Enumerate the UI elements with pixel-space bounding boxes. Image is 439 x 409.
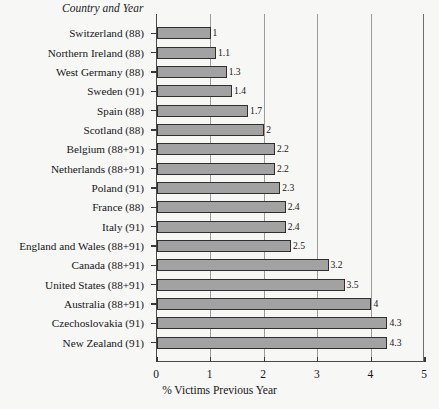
category-label: Sweden (91) bbox=[87, 85, 144, 97]
bar bbox=[157, 182, 280, 194]
bar-value-label: 2.5 bbox=[293, 241, 305, 251]
x-tick-label-5: 5 bbox=[412, 368, 436, 380]
category-label: Australia (88+91) bbox=[64, 298, 144, 310]
category-tick bbox=[151, 265, 157, 267]
bar bbox=[157, 105, 248, 117]
bar-value-label: 3.5 bbox=[347, 280, 359, 290]
bar-value-label: 2.4 bbox=[288, 202, 300, 212]
bar bbox=[157, 163, 275, 175]
bar bbox=[157, 47, 216, 59]
bar-chart: Country and Year Switzerland (88)Norther… bbox=[0, 0, 439, 409]
category-tick bbox=[151, 91, 157, 93]
bar bbox=[157, 298, 371, 310]
category-tick bbox=[151, 226, 157, 228]
bar bbox=[157, 317, 387, 329]
bar bbox=[157, 27, 211, 39]
bar bbox=[157, 221, 286, 233]
bar bbox=[157, 279, 345, 291]
bar bbox=[157, 66, 227, 78]
category-tick bbox=[151, 52, 157, 54]
bar bbox=[157, 124, 264, 136]
category-tick bbox=[151, 149, 157, 151]
category-tick bbox=[151, 71, 157, 73]
category-label: Spain (88) bbox=[97, 105, 144, 117]
category-tick bbox=[151, 187, 157, 189]
category-label: Switzerland (88) bbox=[69, 27, 144, 39]
bar bbox=[157, 337, 387, 349]
x-tick-3 bbox=[317, 357, 318, 362]
category-label: England and Wales (88+91) bbox=[19, 240, 144, 252]
category-label: Canada (88+91) bbox=[72, 259, 144, 271]
category-tick bbox=[151, 342, 157, 344]
category-axis-title: Country and Year bbox=[62, 2, 143, 14]
x-tick-1 bbox=[210, 357, 211, 362]
bar bbox=[157, 259, 329, 271]
bar-value-label: 1.1 bbox=[218, 48, 230, 58]
x-tick-label-4: 4 bbox=[358, 368, 382, 380]
x-tick-label-0: 0 bbox=[144, 368, 168, 380]
category-label: Netherlands (88+91) bbox=[51, 163, 144, 175]
bar-value-label: 2.3 bbox=[282, 183, 294, 193]
category-label: New Zealand (91) bbox=[63, 337, 144, 349]
x-tick-label-2: 2 bbox=[251, 368, 275, 380]
bar-value-label: 2.2 bbox=[277, 144, 289, 154]
x-tick-label-3: 3 bbox=[305, 368, 329, 380]
bar bbox=[157, 240, 291, 252]
category-tick bbox=[151, 110, 157, 112]
bar-value-label: 1.3 bbox=[229, 67, 241, 77]
category-label: Italy (91) bbox=[102, 221, 144, 233]
category-tick bbox=[151, 207, 157, 209]
category-tick bbox=[151, 129, 157, 131]
category-label: France (88) bbox=[92, 201, 144, 213]
bar bbox=[157, 85, 232, 97]
bar-value-label: 4 bbox=[373, 299, 378, 309]
bar-value-label: 4.3 bbox=[389, 318, 401, 328]
x-axis-title: % Victims Previous Year bbox=[0, 384, 439, 396]
bar-value-label: 3.2 bbox=[331, 260, 343, 270]
category-tick bbox=[151, 284, 157, 286]
category-label: West Germany (88) bbox=[56, 66, 144, 78]
category-tick bbox=[151, 323, 157, 325]
category-label: Poland (91) bbox=[91, 182, 144, 194]
bar bbox=[157, 143, 275, 155]
category-label: United States (88+91) bbox=[45, 279, 144, 291]
bar-value-label: 2.4 bbox=[288, 222, 300, 232]
bar-value-label: 1.7 bbox=[250, 106, 262, 116]
x-tick-label-1: 1 bbox=[198, 368, 222, 380]
category-tick bbox=[151, 245, 157, 247]
category-tick bbox=[151, 168, 157, 170]
category-label: Czechoslovakia (91) bbox=[52, 317, 144, 329]
category-tick bbox=[151, 303, 157, 305]
bar-value-label: 1 bbox=[213, 28, 218, 38]
category-tick bbox=[151, 33, 157, 35]
category-label: Belgium (88+91) bbox=[67, 143, 144, 155]
x-tick-2 bbox=[264, 357, 265, 362]
bar-value-label: 4.3 bbox=[389, 338, 401, 348]
bar-value-label: 1.4 bbox=[234, 86, 246, 96]
category-label: Northern Ireland (88) bbox=[48, 47, 144, 59]
category-label: Scotland (88) bbox=[83, 124, 144, 136]
x-tick-5 bbox=[424, 357, 425, 362]
x-tick-0 bbox=[156, 357, 157, 362]
x-tick-4 bbox=[371, 357, 372, 362]
bar bbox=[157, 201, 286, 213]
plot-area: 11.11.31.41.722.22.22.32.42.42.53.23.544… bbox=[156, 14, 424, 362]
bar-value-label: 2.2 bbox=[277, 164, 289, 174]
category-axis-column: Country and Year Switzerland (88)Norther… bbox=[0, 0, 152, 409]
bar-value-label: 2 bbox=[266, 125, 271, 135]
